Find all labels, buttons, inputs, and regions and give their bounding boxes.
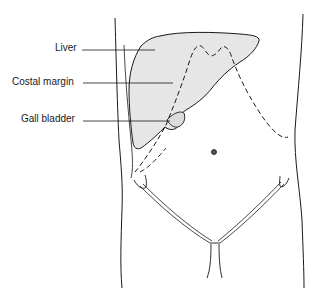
left-inguinal-line (140, 186, 210, 243)
penis-left (207, 244, 211, 278)
abdomen-drawing (0, 0, 316, 288)
label-costal-margin: Costal margin (12, 76, 74, 88)
right-body-outline (295, 14, 304, 288)
right-inguinal-line (220, 184, 284, 243)
costal-margin-left-lower (140, 148, 166, 172)
label-liver: Liver (55, 42, 77, 54)
right-iliac-crest (280, 176, 289, 187)
label-gall-bladder: Gall bladder (21, 113, 75, 125)
right-inguinal-line-inner (218, 182, 281, 241)
left-inguinal-line-inner (143, 184, 212, 241)
penis-right (219, 244, 222, 278)
abdomen-diagram: Liver Costal margin Gall bladder (0, 0, 316, 288)
navel (212, 150, 217, 155)
left-body-outline (115, 18, 122, 288)
